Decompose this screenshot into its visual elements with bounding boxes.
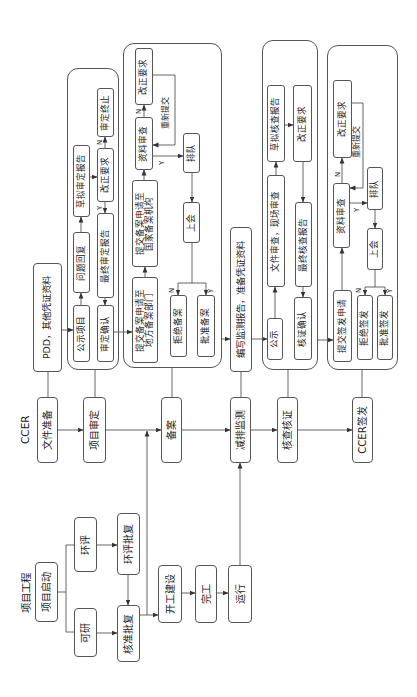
node-issuance-meeting: 上会 [367, 228, 383, 270]
node-validation: 项目审定 [83, 397, 106, 463]
label-issuance-review-yes: Y [353, 208, 361, 212]
lane-title-project: 项目工程 [18, 573, 33, 613]
label-registration-resubmit: 重新提交 [161, 97, 171, 129]
node-issuance-review: 资料审查 [333, 183, 350, 248]
node-feasibility-study: 可研 [74, 608, 97, 657]
node-final-verification-report: 最终核查报告 [295, 202, 312, 287]
node-pdd-docs: PDD，其他凭证资料 [33, 263, 62, 372]
node-registration-correction: 改正要求 [135, 48, 153, 105]
label-registration-meeting-no: N [168, 288, 176, 293]
node-verification-confirm: 核证确认 [294, 297, 312, 360]
node-registration: 备案 [161, 397, 182, 463]
node-operation: 运行 [228, 565, 252, 623]
node-eia: 环评 [74, 517, 97, 572]
node-verification: 核查核证 [277, 397, 298, 463]
node-submit-local-registration: 提交备案申请至 地方备案部门 [132, 277, 158, 363]
submit-local-line-2: 地方备案部门 [145, 293, 154, 347]
node-issuance-queue: 排队 [367, 167, 383, 210]
node-final-validation-report: 最终审定报告 [97, 213, 114, 298]
lane-title-ccer: CCER [19, 415, 31, 444]
ccer-flowchart: 项目工程 CCER 项目启动 可研 环评 核准批复 环评批复 开工建设 完工 运… [0, 0, 417, 697]
label-issuance-review-no: N [334, 172, 342, 177]
node-issuance-reject: 拒绝签发 [357, 295, 373, 360]
label-registration-review-yes: Y [158, 161, 166, 165]
label-issuance-resubmit: 重新提交 [352, 126, 362, 158]
node-registration-review: 资料审查 [135, 117, 153, 170]
node-project-start: 项目启动 [35, 562, 58, 622]
node-eia-approval: 环评批复 [117, 513, 140, 575]
label-validation-no: N [96, 140, 104, 145]
node-validation-correction: 改正要求 [97, 148, 114, 202]
node-completion: 完工 [195, 565, 217, 623]
label-registration-meeting-yes: Y [207, 289, 215, 293]
node-issuance-approve: 批准签发 [377, 295, 393, 360]
node-submit-issuance: 提交签发申请 [333, 290, 352, 362]
node-registration-reject: 拒绝备案 [170, 295, 187, 357]
node-draft-verification-report: 草拟核查报告 [267, 85, 285, 162]
node-validation-confirm: 审定确认 [97, 305, 114, 362]
label-validation-yes: Y [96, 206, 104, 210]
node-question-reply: 问题回复 [73, 232, 90, 293]
node-verification-publish: 公示 [267, 318, 283, 360]
submit-national-line-2: 国家备案机构 [145, 197, 154, 251]
node-issuance: CCER签发 [352, 397, 373, 463]
node-registration-meeting: 上会 [183, 202, 200, 243]
node-publish-project: 公示项目 [73, 305, 90, 362]
node-construction: 开工建设 [158, 565, 182, 623]
node-issuance-correction: 改正要求 [333, 80, 352, 158]
node-validation-terminate: 审定终止 [97, 88, 114, 137]
node-doc-prep: 文件准备 [37, 397, 58, 463]
node-monitoring: 减排监测 [230, 397, 251, 463]
node-registration-queue: 排队 [183, 133, 200, 173]
node-document-site-review: 文件审查，现场审查 [267, 175, 285, 287]
node-approval: 核准批复 [117, 605, 140, 662]
node-draft-validation-report: 草拟审定报告 [73, 145, 90, 217]
label-issuance-meeting-yes: Y [386, 289, 394, 293]
node-registration-approve: 批准备案 [197, 295, 215, 357]
label-issuance-meeting-no: N [355, 288, 363, 293]
label-registration-review-no: N [135, 109, 143, 114]
node-verification-correction: 改正要求 [293, 85, 312, 162]
node-monitoring-report: 编写监测报告，准备凭证资料 [230, 227, 252, 372]
node-submit-national-registration: 提交备案申请至 国家备案机构 [132, 180, 158, 267]
